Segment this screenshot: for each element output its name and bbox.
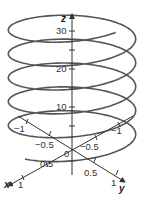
z-tick-label-10: 10	[56, 101, 67, 112]
helix-3d-plot: z x y 30 20 10 0 1 0.5 −0.5 −1 −1 −0.5 0…	[0, 0, 141, 199]
x-tick-label-0.5: 0.5	[40, 158, 53, 169]
y-tick-label-neg1: −1	[14, 123, 25, 134]
x-tick-label-neg0.5: −0.5	[80, 141, 99, 152]
y-tick-label-neg0.5: −0.5	[35, 139, 54, 150]
z-tick-label-30: 30	[56, 25, 67, 36]
x-tick-label-neg1: −1	[111, 125, 122, 136]
z-axis-label: z	[60, 13, 66, 24]
x-axis-label: x	[3, 179, 10, 190]
y-tick-label-0.5: 0.5	[84, 167, 97, 178]
z-tick-label-20: 20	[56, 63, 67, 74]
origin-label: 0	[64, 148, 69, 159]
y-tick-label-1: 1	[111, 177, 116, 188]
y-axis-label: y	[118, 183, 125, 194]
x-tick-label-1: 1	[18, 179, 23, 190]
